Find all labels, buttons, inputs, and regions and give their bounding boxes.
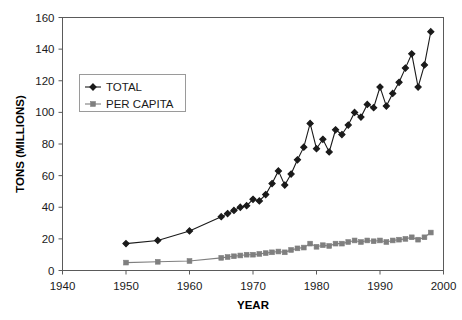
data-point-marker <box>428 230 433 235</box>
data-point-marker <box>289 248 294 253</box>
x-tick-label: 1990 <box>367 280 393 292</box>
data-point-marker <box>301 245 306 250</box>
data-point-marker <box>384 240 389 245</box>
y-tick-label: 140 <box>35 43 54 55</box>
data-point-marker <box>333 241 338 246</box>
y-tick-label: 60 <box>42 170 55 182</box>
x-tick-label: 1940 <box>50 280 76 292</box>
y-tick-label: 120 <box>35 75 54 87</box>
legend-label-0: TOTAL <box>106 81 143 93</box>
data-point-marker <box>320 243 325 248</box>
y-tick-label: 0 <box>48 265 54 277</box>
data-point-marker <box>308 241 313 246</box>
plot-area-frame <box>63 18 444 271</box>
data-point-marker <box>352 238 357 243</box>
data-point-marker <box>295 246 300 251</box>
data-point-marker <box>244 252 249 257</box>
data-point-marker <box>124 260 129 265</box>
x-axis-title: YEAR <box>237 299 270 311</box>
x-tick-label: 1960 <box>177 280 203 292</box>
data-point-marker <box>282 250 287 255</box>
data-point-marker <box>263 251 268 256</box>
y-tick-label: 40 <box>42 201 55 213</box>
data-point-marker <box>359 240 364 245</box>
data-point-marker <box>371 239 376 244</box>
x-tick-label: 1970 <box>240 280 266 292</box>
data-point-marker <box>219 255 224 260</box>
data-point-marker <box>187 259 192 264</box>
data-point-marker <box>232 254 237 259</box>
data-point-marker <box>416 237 421 242</box>
y-axis-ticks: 020406080100120140160 <box>35 12 62 277</box>
y-tick-label: 80 <box>42 138 55 150</box>
data-point-marker <box>276 249 281 254</box>
data-point-marker <box>91 102 96 107</box>
data-point-marker <box>390 238 395 243</box>
data-point-marker <box>238 253 243 258</box>
data-point-marker <box>251 252 256 257</box>
data-point-marker <box>314 244 319 249</box>
data-point-marker <box>365 238 370 243</box>
data-point-marker <box>340 241 345 246</box>
data-point-marker <box>403 236 408 241</box>
data-point-marker <box>257 251 262 256</box>
data-point-marker <box>155 259 160 264</box>
y-tick-label: 20 <box>42 233 55 245</box>
data-point-marker <box>327 244 332 249</box>
x-tick-label: 2000 <box>431 280 457 292</box>
data-point-marker <box>397 237 402 242</box>
data-point-marker <box>422 235 427 240</box>
y-tick-label: 160 <box>35 12 54 24</box>
data-point-marker <box>378 238 383 243</box>
x-tick-label: 1950 <box>113 280 139 292</box>
line-chart: 020406080100120140160 194019501960197019… <box>0 0 462 320</box>
y-tick-label: 100 <box>35 106 54 118</box>
data-point-marker <box>409 235 414 240</box>
chart-legend: TOTALPER CAPITA <box>80 75 186 112</box>
data-point-marker <box>346 240 351 245</box>
x-axis-ticks: 1940195019601970198019902000 <box>50 271 457 292</box>
chart-page: 020406080100120140160 194019501960197019… <box>0 0 462 320</box>
data-point-marker <box>225 255 230 260</box>
legend-label-1: PER CAPITA <box>106 98 174 110</box>
data-point-marker <box>270 250 275 255</box>
x-tick-label: 1980 <box>304 280 330 292</box>
y-axis-title: TONS (MILLIONS) <box>14 95 26 193</box>
